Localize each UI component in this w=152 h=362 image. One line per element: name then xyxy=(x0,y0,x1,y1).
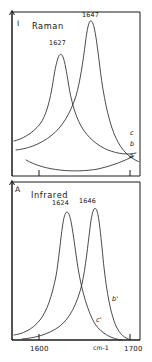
raman-curve-label-a: a xyxy=(129,152,133,160)
raman-peak-label-1647: 1647 xyxy=(82,11,99,19)
spectra-figure: I Raman 1627 1647 c b a A Infrared 1624 … xyxy=(0,0,152,362)
infrared-y-axis-label: A xyxy=(15,185,21,194)
infrared-curve-label-c-prime: c' xyxy=(96,316,102,324)
raman-curve-c xyxy=(14,54,136,154)
raman-curve-label-c: c xyxy=(130,129,134,137)
infrared-curve-b-prime xyxy=(14,212,122,340)
infrared-curve-label-b-prime: b' xyxy=(112,295,118,303)
raman-y-axis-label: I xyxy=(17,19,19,28)
infrared-curve-c-prime xyxy=(22,208,130,339)
raman-title: Raman xyxy=(32,21,64,31)
infrared-frame xyxy=(12,182,140,340)
raman-peak-label-1627: 1627 xyxy=(49,39,66,47)
raman-panel: I Raman 1627 1647 c b a xyxy=(10,11,141,177)
raman-curve-b xyxy=(16,21,139,162)
infrared-x-unit-label: cm-1 xyxy=(93,344,109,351)
raman-frame xyxy=(12,12,140,176)
raman-curve-a xyxy=(26,156,134,171)
infrared-xticklabel-1600: 1600 xyxy=(30,345,49,353)
spectra-svg: I Raman 1627 1647 c b a A Infrared 1624 … xyxy=(0,0,152,362)
infrared-peak-label-1624: 1624 xyxy=(52,199,69,207)
infrared-panel: A Infrared 1624 1646 b' c' 1600 1700 cm-… xyxy=(10,181,143,354)
raman-curve-label-b: b xyxy=(130,140,134,148)
infrared-xticklabel-1700: 1700 xyxy=(124,345,143,353)
infrared-peak-label-1646: 1646 xyxy=(79,197,96,205)
